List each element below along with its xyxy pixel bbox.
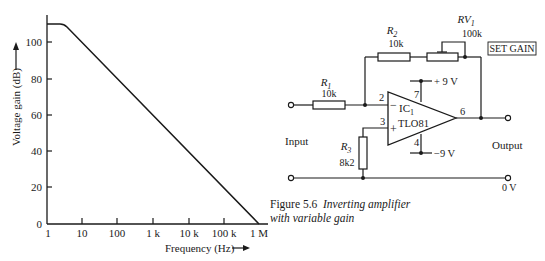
gain-curve	[47, 24, 259, 224]
pin-7: 7	[414, 89, 419, 100]
y-axis-title: Voltage gain (dB)	[10, 68, 23, 146]
noninverting-sign: +	[390, 122, 397, 136]
x-tick-label: 100	[109, 227, 126, 239]
figure-caption: Figure 5.6 Inverting amplifier with vari…	[270, 197, 510, 225]
ic-part: TLO81	[398, 118, 429, 129]
pin-3: 3	[380, 116, 385, 127]
output-label: Output	[492, 139, 523, 151]
r3-value: 8k2	[340, 157, 355, 168]
caption-title-line1: Inverting amplifier	[323, 198, 410, 210]
ground-terminal-right	[505, 175, 510, 180]
r3-name: R3	[340, 140, 352, 155]
y-tick-label: 60	[31, 109, 43, 121]
r2-name: R2	[386, 24, 398, 39]
x-ticks	[82, 218, 224, 224]
caption-number: Figure 5.6	[270, 198, 317, 210]
y-tick-label: 0	[37, 218, 43, 230]
x-tick-labels: 1 10 100 1 k 10 k 100 k 1 M	[45, 227, 268, 239]
inverting-sign: −	[390, 98, 397, 112]
input-label: Input	[285, 135, 308, 147]
r2-value: 10k	[389, 38, 404, 49]
ground-label: 0 V	[502, 182, 517, 193]
set-gain-label: SET GAIN	[489, 43, 534, 54]
input-terminal	[288, 102, 293, 107]
gain-chart	[47, 15, 268, 224]
component-labels: R1 10k R2 10k RV1 100k R3 8k2	[320, 13, 482, 168]
rv1-value: 100k	[462, 28, 482, 39]
pin-6: 6	[460, 106, 465, 117]
x-tick-label: 10 k	[179, 227, 199, 239]
potentiometer-rv1	[427, 53, 458, 61]
resistor-r2	[378, 53, 410, 61]
r1-value: 10k	[322, 88, 337, 99]
caption-title-line2: with variable gain	[270, 212, 354, 224]
y-axis-arrow	[13, 42, 19, 70]
x-tick-label: 100 k	[212, 227, 237, 239]
x-axis-title: Frequency (Hz)	[165, 242, 235, 255]
rv1-name: RV1	[456, 13, 474, 28]
y-tick-labels: 100 80 60 40 20 0	[26, 36, 43, 230]
y-ticks	[47, 42, 52, 187]
ground-terminal-left	[288, 175, 293, 180]
vplus-label: + 9 V	[434, 76, 458, 87]
y-tick-label: 100	[26, 36, 43, 48]
terminal-labels: Input Output 0 V	[285, 135, 523, 193]
output-terminal	[505, 115, 510, 120]
x-tick-label: 1 M	[250, 227, 268, 239]
resistor-r1	[313, 101, 345, 109]
x-axis-arrow	[232, 245, 250, 251]
x-tick-label: 1	[45, 227, 51, 239]
y-tick-label: 20	[31, 181, 43, 193]
y-tick-label: 40	[31, 145, 43, 157]
vminus-label: −9 V	[434, 148, 456, 159]
y-tick-label: 80	[31, 73, 43, 85]
pin-4: 4	[414, 137, 420, 148]
pin-2: 2	[379, 92, 384, 103]
x-tick-label: 1 k	[146, 227, 160, 239]
x-tick-label: 10	[77, 227, 89, 239]
resistor-r3	[359, 137, 367, 169]
